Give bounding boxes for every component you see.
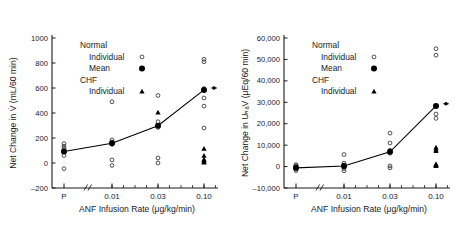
legend-label: CHF xyxy=(80,75,97,85)
data-point-mean-circle xyxy=(61,149,67,155)
data-point-mean-circle xyxy=(201,87,207,93)
data-point-open-circle xyxy=(434,116,438,120)
data-point-open-circle xyxy=(388,141,392,145)
data-point-open-circle xyxy=(110,100,114,104)
y-tick-label: 400 xyxy=(35,109,48,118)
data-point-open-circle xyxy=(156,161,160,165)
legend-label: Individual xyxy=(321,52,357,62)
legend-marker-filled-circle xyxy=(371,65,377,71)
data-point-mean-circle xyxy=(341,163,347,169)
x-tick-label: 0.03 xyxy=(382,192,398,201)
data-point-mean-circle xyxy=(109,140,115,146)
data-point-open-circle xyxy=(62,167,66,171)
y-tick-label: 30,000 xyxy=(257,98,280,107)
data-point-chf-triangle xyxy=(155,110,160,115)
legend-label: Individual xyxy=(321,86,357,96)
x-tick-label: 0.10 xyxy=(428,192,444,201)
data-point-open-circle xyxy=(156,156,160,160)
y-tick-label: 20,000 xyxy=(257,119,280,128)
data-point-open-circle xyxy=(156,94,160,98)
data-point-open-circle xyxy=(202,60,206,64)
y-tick-label: 800 xyxy=(35,59,48,68)
y-tick-label: 200 xyxy=(35,134,48,143)
legend-label: Mean xyxy=(321,63,342,73)
x-axis-label: ANF Infusion Rate (μg/kg/min) xyxy=(311,204,427,214)
data-point-open-circle xyxy=(434,47,438,51)
y-tick-label: 0 xyxy=(276,162,280,171)
data-point-open-circle xyxy=(434,53,438,57)
data-point-open-circle xyxy=(110,164,114,168)
data-point-open-circle xyxy=(202,96,206,100)
two-panel-scatter-figure: 10008006004002000–200P0.010.030.10ANF In… xyxy=(0,0,464,231)
legend-label: Individual xyxy=(89,86,125,96)
x-axis-label: ANF Infusion Rate (μg/kg/min) xyxy=(79,204,195,214)
x-tick-label: P xyxy=(293,192,298,201)
y-tick-label: 50,000 xyxy=(257,55,280,64)
data-point-mean-circle xyxy=(433,103,439,109)
x-tick-label: 0.01 xyxy=(104,192,120,201)
data-point-open-circle xyxy=(434,112,438,116)
legend-marker-open-circle xyxy=(140,55,144,59)
y-tick-label: 10,000 xyxy=(257,141,280,150)
data-point-open-circle xyxy=(202,126,206,130)
legend-marker-filled-circle xyxy=(139,65,145,71)
y-tick-label: 40,000 xyxy=(257,76,280,85)
y-tick-label: 60,000 xyxy=(257,34,280,43)
x-tick-label: 0.03 xyxy=(150,192,166,201)
legend-label: Mean xyxy=(89,63,110,73)
legend-marker-triangle xyxy=(139,89,144,94)
y-tick-label: –10,000 xyxy=(253,184,280,193)
y-tick-label: 1000 xyxy=(31,34,48,43)
y-tick-label: 600 xyxy=(35,84,48,93)
data-point-open-circle xyxy=(342,169,346,173)
legend-label: CHF xyxy=(312,75,329,85)
legend-marker-open-circle xyxy=(372,55,376,59)
legend-label: Individual xyxy=(89,52,125,62)
data-point-mean-circle xyxy=(387,149,393,155)
data-point-open-circle xyxy=(202,104,206,108)
right-panel: 60,00050,00040,00030,00020,00010,0000–10… xyxy=(232,0,464,231)
mean-trend-line xyxy=(296,106,436,168)
legend-label: Normal xyxy=(80,40,107,50)
x-tick-label: P xyxy=(61,192,66,201)
right-plot-svg: 60,00050,00040,00030,00020,00010,0000–10… xyxy=(232,0,464,231)
data-point-open-circle xyxy=(388,131,392,135)
y-tick-label: 0 xyxy=(44,159,48,168)
data-point-chf-triangle xyxy=(201,146,206,151)
data-point-mean-circle xyxy=(293,165,299,171)
x-tick-label: 0.01 xyxy=(336,192,352,201)
left-panel: 10008006004002000–200P0.010.030.10ANF In… xyxy=(0,0,232,231)
legend-marker-triangle xyxy=(371,89,376,94)
data-point-mean-circle xyxy=(155,123,161,129)
mean-trend-line xyxy=(64,90,204,152)
y-axis-label: Net Change in V̇ (mL/60 min) xyxy=(8,57,18,168)
data-point-open-circle xyxy=(110,158,114,162)
legend-label: Normal xyxy=(312,40,339,50)
y-tick-label: –200 xyxy=(31,184,48,193)
left-plot-svg: 10008006004002000–200P0.010.030.10ANF In… xyxy=(0,0,232,231)
x-tick-label: 0.10 xyxy=(196,192,212,201)
y-axis-label: Net Change in UₙₐV (μEq/60 min) xyxy=(240,49,250,177)
data-point-open-circle xyxy=(342,153,346,157)
